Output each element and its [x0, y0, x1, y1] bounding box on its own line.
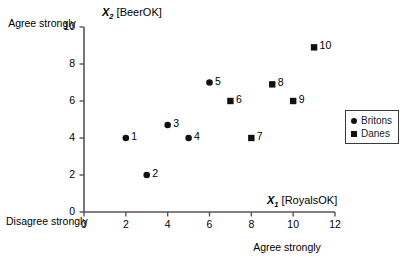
- legend-item-danes: Danes: [351, 127, 392, 140]
- scatter-plot-figure: Agree strongly Disagree strongly Agree s…: [0, 0, 415, 272]
- data-point-8: [269, 81, 275, 87]
- y-tick-label: 0: [55, 205, 75, 217]
- y-tick-label: 6: [55, 94, 75, 106]
- data-point-10: [311, 44, 317, 50]
- data-point-label-10: 10: [320, 39, 332, 51]
- data-point-label-8: 8: [278, 76, 284, 88]
- x-tick-label: 0: [73, 218, 95, 230]
- data-point-4: [185, 135, 192, 142]
- data-point-3: [164, 122, 171, 129]
- x-tick-label: 6: [199, 218, 221, 230]
- data-point-label-3: 3: [173, 117, 179, 129]
- x-tick-label: 10: [282, 218, 304, 230]
- x-tick-label: 12: [324, 218, 346, 230]
- circle-marker-icon: [351, 118, 357, 124]
- y-tick-label: 4: [55, 131, 75, 143]
- y-tick-label: 10: [55, 20, 75, 32]
- x-tick-label: 4: [157, 218, 179, 230]
- y-tick-label: 8: [55, 57, 75, 69]
- data-point-9: [290, 98, 296, 104]
- legend-item-label: Danes: [361, 127, 390, 140]
- data-point-label-7: 7: [257, 130, 263, 142]
- data-point-6: [227, 98, 233, 104]
- data-point-1: [123, 135, 130, 142]
- data-point-5: [206, 79, 213, 86]
- legend-item-label: Britons: [361, 114, 392, 127]
- legend-item-britons: Britons: [351, 114, 392, 127]
- data-point-label-2: 2: [152, 167, 158, 179]
- data-point-2: [143, 172, 150, 179]
- data-point-label-1: 1: [131, 130, 137, 142]
- data-point-label-4: 4: [194, 130, 200, 142]
- data-point-7: [248, 135, 254, 141]
- square-marker-icon: [351, 131, 357, 137]
- legend: BritonsDanes: [345, 110, 399, 144]
- data-point-label-9: 9: [299, 93, 305, 105]
- x-tick-label: 8: [240, 218, 262, 230]
- data-point-label-5: 5: [215, 75, 221, 87]
- x-tick-label: 2: [115, 218, 137, 230]
- y-tick-label: 2: [55, 168, 75, 180]
- data-point-label-6: 6: [236, 93, 242, 105]
